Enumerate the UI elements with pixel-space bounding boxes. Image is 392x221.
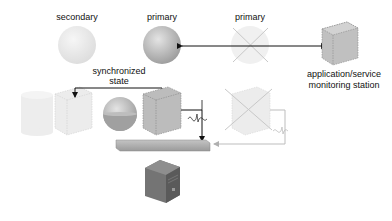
heartbeat-signal-dark [181,100,207,141]
label-monitoring-line1: application/service [296,69,392,80]
label-sync-line2: state [84,76,154,87]
primary-data-cube [143,87,181,135]
replica-cube-faded [55,87,92,135]
server-tower [145,160,180,203]
label-monitoring-line2: monitoring station [296,80,392,91]
network-switch-bar [116,140,210,151]
label-secondary: secondary [52,12,102,23]
diagram-canvas [0,0,392,221]
label-primary-right: primary [228,12,272,23]
primary-data-sphere [100,97,140,134]
storage-cylinder-faded [21,91,53,136]
failed-data-cube [225,87,272,135]
primary-node-sphere [143,26,181,64]
monitoring-station-cube [322,22,358,65]
secondary-node-sphere [58,26,96,64]
label-primary-left: primary [140,12,184,23]
failed-primary-node [231,26,269,64]
